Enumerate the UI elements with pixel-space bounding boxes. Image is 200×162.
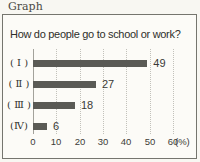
x-tick-10: 10 [44, 136, 68, 148]
bar-category-2 [33, 81, 96, 88]
x-tick-20: 20 [68, 136, 92, 148]
x-tick-0: 0 [21, 136, 45, 148]
x-tick-50: 50 [138, 136, 162, 148]
category-label-1: ( Ⅰ ) [6, 56, 32, 70]
value-label-2: 27 [102, 78, 114, 91]
chart-box: How do people go to school or work? ( Ⅰ … [2, 14, 197, 159]
bar-category-3 [33, 102, 75, 109]
category-label-4: (Ⅳ) [6, 119, 32, 133]
gridline [173, 49, 174, 134]
chart-figure: Graph How do people go to school or work… [0, 0, 200, 162]
value-label-4: 6 [53, 120, 59, 133]
x-axis-unit: (%) [175, 136, 190, 148]
bar-category-1 [33, 60, 147, 67]
figure-caption: Graph [8, 0, 43, 13]
gridline [150, 49, 151, 134]
x-tick-40: 40 [114, 136, 138, 148]
bar-category-4 [33, 123, 47, 130]
value-label-3: 18 [81, 99, 93, 112]
value-label-1: 49 [153, 57, 165, 70]
category-label-2: ( Ⅱ ) [6, 77, 32, 91]
x-tick-30: 30 [91, 136, 115, 148]
chart-title: How do people go to school or work? [10, 28, 192, 40]
category-label-3: ( Ⅲ ) [6, 98, 32, 112]
